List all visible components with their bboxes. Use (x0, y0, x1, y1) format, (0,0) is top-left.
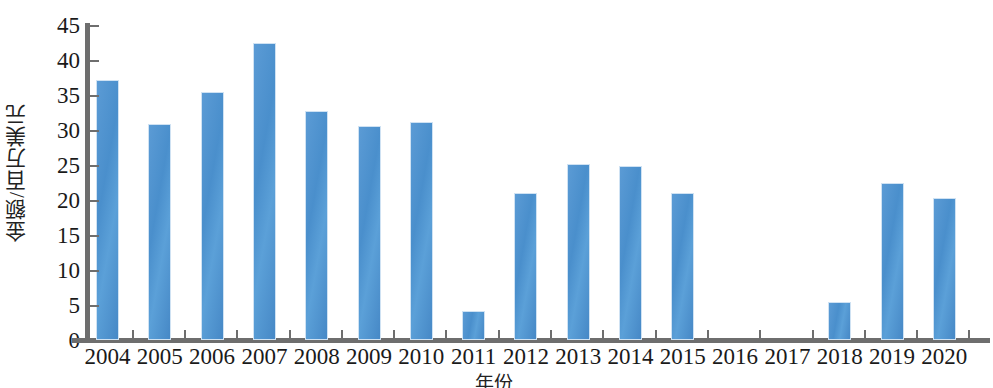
bar-2014 (619, 166, 642, 340)
y-tick-mark (90, 95, 99, 97)
x-tick-mark (289, 330, 291, 339)
bar-2005 (148, 124, 171, 340)
x-tick-label-2004: 2004 (85, 345, 131, 368)
bar-2007 (253, 43, 276, 341)
x-tick-mark (445, 330, 447, 339)
x-axis-title: 年份 (0, 368, 993, 388)
x-tick-label-2013: 2013 (555, 345, 601, 368)
bar-2013 (567, 164, 590, 340)
y-tick-mark (90, 130, 99, 132)
y-tick-mark (90, 270, 99, 272)
x-tick-mark (184, 330, 186, 339)
x-tick-mark (707, 330, 709, 339)
bars-layer (0, 0, 993, 340)
x-tick-label-2015: 2015 (660, 345, 706, 368)
y-tick-mark (90, 25, 99, 27)
x-tick-mark (132, 330, 134, 339)
x-tick-label-2006: 2006 (189, 345, 235, 368)
bar-2020 (933, 198, 956, 340)
bar-2009 (358, 126, 381, 340)
x-tick-mark (968, 330, 970, 339)
bar-2011 (462, 311, 485, 340)
x-tick-label-2014: 2014 (608, 345, 654, 368)
y-tick-mark (90, 305, 99, 307)
x-tick-label-2018: 2018 (817, 345, 863, 368)
y-tick-mark (90, 165, 99, 167)
bar-2004 (96, 80, 119, 340)
x-tick-label-2011: 2011 (451, 345, 496, 368)
bar-2010 (410, 122, 433, 340)
x-tick-label-2016: 2016 (712, 345, 758, 368)
x-tick-mark (550, 330, 552, 339)
y-tick-mark (90, 235, 99, 237)
x-tick-mark (393, 330, 395, 339)
x-tick-mark (812, 330, 814, 339)
x-tick-mark (916, 330, 918, 339)
bar-2018 (828, 302, 851, 340)
x-tick-mark (498, 330, 500, 339)
x-tick-mark (864, 330, 866, 339)
x-tick-mark (655, 330, 657, 339)
bar-2019 (881, 183, 904, 340)
bar-2015 (671, 193, 694, 340)
x-axis-title-text: 年份 (475, 373, 513, 388)
x-tick-label-2010: 2010 (398, 345, 444, 368)
x-tick-label-2020: 2020 (921, 345, 967, 368)
y-tick-mark (90, 200, 99, 202)
x-tick-label-2012: 2012 (503, 345, 549, 368)
x-tick-mark (602, 330, 604, 339)
x-tick-label-2008: 2008 (294, 345, 340, 368)
x-tick-mark (341, 330, 343, 339)
x-tick-label-2019: 2019 (869, 345, 915, 368)
x-tick-label-2017: 2017 (764, 345, 810, 368)
x-tick-label-2007: 2007 (241, 345, 287, 368)
x-tick-label-2005: 2005 (137, 345, 183, 368)
bar-2012 (514, 193, 537, 340)
x-tick-mark (759, 330, 761, 339)
y-tick-mark (90, 60, 99, 62)
x-tick-label-2009: 2009 (346, 345, 392, 368)
bar-chart: 金额/百万美元 051015202530354045 2004200520062… (0, 0, 993, 388)
bar-2008 (305, 111, 328, 340)
bar-2006 (201, 92, 224, 340)
x-tick-mark (236, 330, 238, 339)
